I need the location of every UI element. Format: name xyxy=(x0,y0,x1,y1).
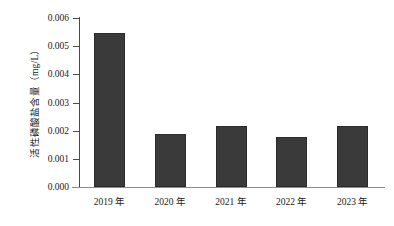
y-axis-tick-label-text: 0.001 xyxy=(29,154,69,164)
x-axis-label: 2023 年 xyxy=(323,196,383,208)
x-axis-label: 2021 年 xyxy=(201,196,261,208)
x-axis-label: 2020 年 xyxy=(140,196,200,208)
y-axis-tick-label: 0.002 xyxy=(26,126,69,136)
bar xyxy=(216,126,247,187)
y-axis-tick-label: 0.001 xyxy=(26,154,69,164)
bar-chart: 活性磷酸盐含量（mg/L） 0.0060.0050.0040.0030.0020… xyxy=(0,0,394,226)
y-axis-tick-label: 0.000 xyxy=(26,182,69,192)
x-axis-line xyxy=(72,187,385,188)
y-axis-tick-label-text: 0.003 xyxy=(29,98,69,108)
plot-area xyxy=(79,18,383,187)
y-axis-tick-label-text: 0.000 xyxy=(29,182,69,192)
y-axis-tick-label-text: 0.002 xyxy=(29,126,69,136)
y-axis-tick-label-text: 0.004 xyxy=(29,69,69,79)
y-axis-tick-label-text: 0.005 xyxy=(29,41,69,51)
bar xyxy=(337,126,368,187)
bar xyxy=(94,33,125,187)
bar xyxy=(276,137,307,187)
x-axis-label: 2019 年 xyxy=(79,196,139,208)
y-axis-tick-label: 0.004 xyxy=(26,69,69,79)
y-axis-tick-label: 0.003 xyxy=(26,98,69,108)
y-axis-tick-label: 0.006 xyxy=(26,13,69,23)
y-axis-tick-label: 0.005 xyxy=(26,41,69,51)
y-axis-tick-label-text: 0.006 xyxy=(29,13,69,23)
x-axis-label: 2022 年 xyxy=(262,196,322,208)
bar xyxy=(155,134,186,187)
